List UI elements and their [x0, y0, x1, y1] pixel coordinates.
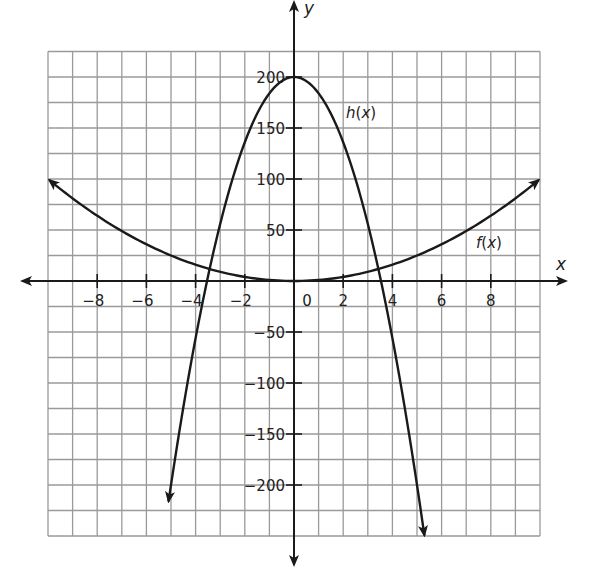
graph: −8−6−4−20246820015010050−50−100−150−200 … [0, 0, 589, 568]
h-function-label: h(x) [346, 104, 376, 122]
x-tick-label: −8 [82, 292, 104, 310]
y-tick-label: −100 [244, 375, 285, 393]
f-function-label: f(x) [476, 234, 502, 252]
y-tick-label: −50 [253, 324, 285, 342]
y-axis-label: y [303, 0, 315, 18]
y-tick-label: −150 [244, 426, 285, 444]
x-axis-label: x [555, 254, 567, 274]
x-tick-label: −2 [230, 292, 252, 310]
y-tick-label: 200 [256, 69, 285, 87]
x-tick-label: −4 [181, 292, 203, 310]
y-tick-label: 100 [256, 171, 285, 189]
x-tick-label: 0 [302, 292, 312, 310]
x-tick-label: −6 [131, 292, 153, 310]
y-tick-label: 50 [266, 222, 285, 240]
x-tick-label: 2 [338, 292, 348, 310]
y-tick-label: −200 [244, 477, 285, 495]
x-tick-label: 4 [388, 292, 398, 310]
x-tick-label: 6 [437, 292, 447, 310]
axes [22, 2, 566, 565]
x-tick-label: 8 [486, 292, 496, 310]
y-tick-label: 150 [256, 120, 285, 138]
